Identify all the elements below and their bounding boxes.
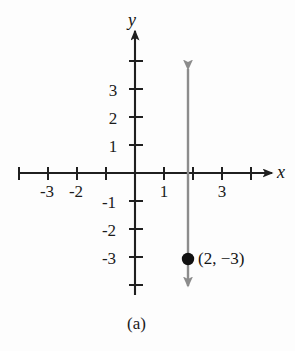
y-tick-label-minus2: -2 <box>96 222 122 239</box>
figure-container: y x -3 -2 1 3 3 2 1 -1 -2 -3 (2, −3) (a) <box>0 0 295 351</box>
coordinate-plane-svg <box>0 0 295 351</box>
x-tick-label-3: 3 <box>213 183 231 200</box>
y-tick-label-3: 3 <box>104 82 122 99</box>
plotted-point <box>182 253 194 265</box>
y-tick-label-1: 1 <box>104 138 122 155</box>
x-tick-label-1: 1 <box>155 183 173 200</box>
y-tick-label-minus3: -3 <box>96 250 122 267</box>
y-tick-label-2: 2 <box>104 110 122 127</box>
x-tick-label-minus3: -3 <box>34 183 60 200</box>
y-tick-label-minus1: -1 <box>96 194 122 211</box>
point-coordinate-label: (2, −3) <box>198 250 244 267</box>
x-axis-label: x <box>277 163 285 181</box>
figure-caption: (a) <box>127 315 146 332</box>
y-axis-label: y <box>128 11 136 29</box>
x-tick-label-minus2: -2 <box>63 183 89 200</box>
